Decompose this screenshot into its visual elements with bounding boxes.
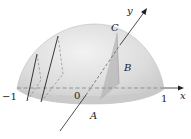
tick-one: 1 [161, 93, 167, 104]
point-label-b: B [123, 62, 131, 73]
dome-diagram: −1 0 1 x y C B A [0, 0, 191, 139]
tick-zero: 0 [74, 90, 80, 101]
dome-surface [17, 24, 164, 104]
point-label-a: A [89, 110, 97, 121]
y-axis-label: y [126, 5, 133, 16]
x-axis-label: x [180, 90, 186, 101]
point-label-c: C [111, 22, 119, 33]
tick-neg-one: −1 [2, 91, 17, 102]
y-axis-arrow-icon [141, 8, 147, 15]
